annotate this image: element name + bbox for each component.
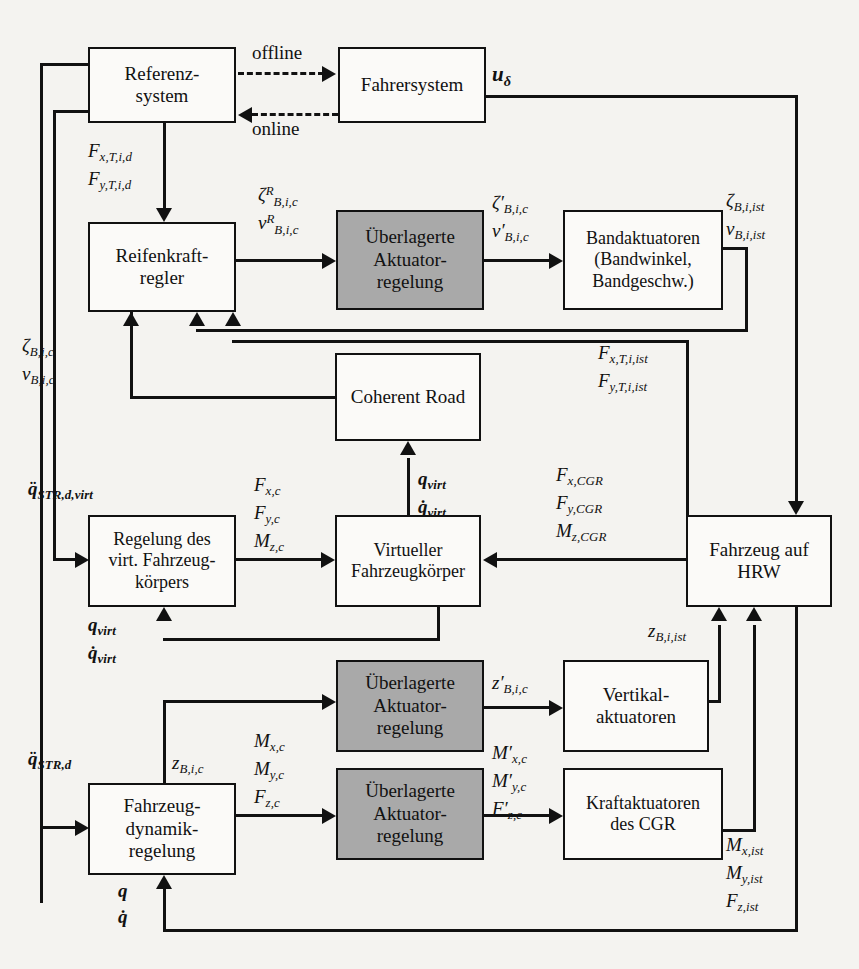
edge-zbic-riser bbox=[163, 700, 166, 785]
label-f-cgr: Fx,CGR Fy,CGR Mz,CGR bbox=[556, 462, 606, 546]
block-referenzsystem[interactable]: Referenz- system bbox=[88, 47, 236, 123]
edge-online bbox=[252, 113, 338, 116]
edge-left-bus-outer-to-fdr bbox=[40, 826, 77, 829]
label-u-delta: uδ bbox=[492, 62, 511, 90]
arrow-q-fb-into-fdr bbox=[156, 875, 172, 889]
label-zeta-v-r-bic: ζRB,i,c vRB,i,c bbox=[258, 182, 298, 239]
label-qvirt-top: qvirt q̇virt bbox=[418, 466, 446, 522]
edge-q-fb-horizontal bbox=[163, 929, 798, 932]
block-reifenkraftregler[interactable]: Reifenkraft- regler bbox=[88, 222, 236, 312]
edge-qvirt-fb-horizontal bbox=[163, 638, 440, 641]
arrow-qvirt-to-coherent bbox=[400, 441, 416, 455]
block-regelung-virt-fahrzeugkoerpers[interactable]: Regelung des virt. Fahrzeug- körpers bbox=[88, 515, 236, 607]
block-ueberlagerte-aktuatorregelung-2[interactable]: Überlagerte Aktuator- regelung bbox=[336, 660, 484, 752]
block-fahrzeugdynamik-line2: dynamik- bbox=[123, 818, 200, 840]
block-ueberlagerte-1-line2: Aktuator- bbox=[365, 249, 455, 271]
arrow-mprime-into-kraft bbox=[549, 808, 563, 824]
edge-ftiist-vertical bbox=[686, 340, 689, 515]
edge-q-fb-vertical bbox=[795, 607, 798, 932]
label-qdd-str-d-virt: q̈STR,d,virt bbox=[28, 478, 93, 503]
edge-zeta-r-bic bbox=[236, 259, 322, 262]
block-bandaktuatoren[interactable]: Bandaktuatoren (Bandwinkel, Bandgeschw.) bbox=[563, 210, 723, 310]
block-kraftaktuatoren-des-cgr[interactable]: Kraftaktuatoren des CGR bbox=[563, 768, 723, 860]
block-regelung-virt-line2: virt. Fahrzeug- bbox=[109, 550, 216, 571]
edge-zeta-prime-bic bbox=[484, 259, 549, 262]
block-ueberlagerte-3-line2: Aktuator- bbox=[365, 803, 455, 825]
block-fahrzeugdynamikregelung[interactable]: Fahrzeug- dynamik- regelung bbox=[88, 783, 236, 875]
label-zeta-v-bi-ist: ζB,i,ist vB,i,ist bbox=[726, 188, 765, 244]
block-reifenkraftregler-line2: regler bbox=[116, 267, 209, 289]
edge-mist-vertical bbox=[753, 625, 756, 832]
block-kraftaktuatoren-line1: Kraftaktuatoren bbox=[586, 793, 700, 814]
arrow-zbic-into-ueberlagerte2 bbox=[322, 694, 336, 710]
block-virtueller-fahrzeugkoerper[interactable]: Virtueller Fahrzeugkörper bbox=[335, 515, 481, 607]
block-ueberlagerte-1-line3: regelung bbox=[365, 271, 455, 293]
label-f-t-i-d: Fx,T,i,d Fy,T,i,d bbox=[88, 138, 132, 194]
block-ueberlagerte-2-line1: Überlagerte bbox=[365, 672, 455, 694]
edge-left-bus-outer-top bbox=[40, 63, 90, 66]
block-ueberlagerte-aktuatorregelung-1[interactable]: Überlagerte Aktuator- regelung bbox=[336, 210, 484, 310]
edge-zprime-bic bbox=[484, 706, 549, 709]
edge-zbic-to-ueberlagerte2 bbox=[163, 700, 322, 703]
arrow-mxc-into-ueberlagerte3 bbox=[322, 808, 336, 824]
edge-band-ist-top bbox=[723, 247, 748, 250]
block-fahrzeug-hrw-line1: Fahrzeug auf bbox=[709, 539, 809, 561]
edge-band-ist-vertical bbox=[745, 247, 748, 332]
arrow-online bbox=[238, 107, 252, 123]
block-fahrzeugdynamik-line1: Fahrzeug- bbox=[123, 795, 200, 817]
edge-qvirt-fb-vertical bbox=[437, 607, 440, 641]
block-vertikalaktuatoren-line2: aktuatoren bbox=[596, 706, 676, 728]
block-virtueller-koerper-line1: Virtueller bbox=[351, 540, 465, 561]
block-ueberlagerte-3-line3: regelung bbox=[365, 825, 455, 847]
block-bandaktuatoren-line2: (Bandwinkel, bbox=[586, 249, 700, 270]
arrow-offline bbox=[322, 66, 336, 82]
block-reifenkraftregler-line1: Reifenkraft- bbox=[116, 245, 209, 267]
edge-qvirt-to-coherent bbox=[407, 458, 410, 516]
block-regelung-virt-line3: körpers bbox=[109, 572, 216, 593]
edge-offline bbox=[238, 72, 324, 75]
block-ueberlagerte-2-line3: regelung bbox=[365, 717, 455, 739]
block-referenzsystem-line2: system bbox=[125, 85, 200, 107]
block-ueberlagerte-aktuatorregelung-3[interactable]: Überlagerte Aktuator- regelung bbox=[336, 768, 484, 860]
edge-ftid bbox=[163, 123, 166, 208]
edge-fxc-myc-mzc bbox=[236, 558, 321, 561]
arrow-band-ist-into-regler bbox=[189, 312, 205, 326]
label-f-t-i-ist: Fx,T,i,ist Fy,T,i,ist bbox=[598, 340, 648, 396]
block-bandaktuatoren-line1: Bandaktuatoren bbox=[586, 228, 700, 249]
arrow-mist-into-hrw bbox=[746, 607, 762, 621]
label-qdd-str-d: q̈STR,d bbox=[28, 748, 71, 773]
label-offline: offline bbox=[252, 42, 302, 64]
block-fahrzeugdynamik-line3: regelung bbox=[123, 840, 200, 862]
block-coherent-road[interactable]: Coherent Road bbox=[335, 353, 481, 441]
label-zeta-v-prime-bic: ζ′B,i,c v′B,i,c bbox=[492, 190, 529, 246]
block-ueberlagerte-1-line1: Überlagerte bbox=[365, 226, 455, 248]
block-regelung-virt-line1: Regelung des bbox=[109, 529, 216, 550]
arrow-zeta-r-bic bbox=[322, 253, 336, 269]
arrow-udelta-into-hrw bbox=[788, 501, 804, 515]
block-bandaktuatoren-line3: Bandgeschw.) bbox=[586, 271, 700, 292]
block-referenzsystem-line1: Referenz- bbox=[125, 63, 200, 85]
label-fxc-fyc-mzc: Fx,c Fy,c Mz,c bbox=[254, 472, 284, 556]
block-coherent-road-line1: Coherent Road bbox=[351, 386, 466, 408]
arrow-zeta-prime-bic bbox=[549, 253, 563, 269]
arrow-fxc-into-virt bbox=[321, 552, 335, 568]
block-vertikalaktuatoren-line1: Vertikal- bbox=[596, 684, 676, 706]
block-fahrzeug-auf-hrw[interactable]: Fahrzeug auf HRW bbox=[686, 515, 832, 607]
label-mxc-myc-fzc: Mx,c My,c Fz,c bbox=[254, 728, 285, 812]
label-m-prime-f-prime: M′x,c M′y,c F′z,c bbox=[492, 740, 527, 824]
block-diagram-canvas: Referenz- system Fahrersystem Reifenkraf… bbox=[0, 0, 859, 969]
block-fahrersystem[interactable]: Fahrersystem bbox=[338, 47, 486, 123]
block-fahrzeug-hrw-line2: HRW bbox=[709, 561, 809, 583]
block-ueberlagerte-2-line2: Aktuator- bbox=[365, 695, 455, 717]
block-ueberlagerte-3-line1: Überlagerte bbox=[365, 780, 455, 802]
edge-mxc-myc-fzc bbox=[236, 814, 322, 817]
label-z-bi-ist: zB,i,ist bbox=[648, 620, 686, 645]
edge-zbiist-vertical bbox=[718, 625, 721, 703]
arrow-zbiist-into-hrw bbox=[711, 607, 727, 621]
arrow-qvirt-fb-into-regelung bbox=[156, 607, 172, 621]
edge-q-fb-riser bbox=[163, 889, 166, 931]
edge-band-ist-horizontal bbox=[196, 329, 748, 332]
arrow-ftiist-into-regler bbox=[225, 312, 241, 326]
block-vertikalaktuatoren[interactable]: Vertikal- aktuatoren bbox=[563, 660, 709, 752]
label-q-qdot: q q̇ bbox=[118, 878, 128, 930]
